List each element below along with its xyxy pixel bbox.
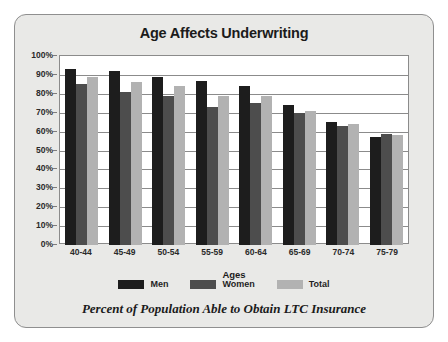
legend-label: Women	[222, 279, 254, 289]
bar-women-50-54[interactable]	[163, 96, 174, 245]
bar-women-75-79[interactable]	[381, 134, 392, 246]
bar-total-65-69[interactable]	[305, 111, 316, 245]
bar-group	[234, 56, 278, 245]
y-axis-tick-label: 80%	[36, 88, 53, 98]
bar-women-70-74[interactable]	[337, 126, 348, 245]
y-axis-tick-mark	[53, 244, 57, 245]
bar-group	[321, 56, 365, 245]
legend-label: Men	[150, 279, 168, 289]
bar-women-40-44[interactable]	[76, 84, 87, 245]
y-axis-tick-mark	[53, 112, 57, 113]
x-axis-tick-label: 40-44	[59, 247, 103, 257]
legend-item-women[interactable]: Women	[190, 279, 254, 289]
bar-women-45-49[interactable]	[120, 92, 131, 245]
legend-swatch-icon	[118, 280, 144, 289]
y-axis-tick-mark	[53, 131, 57, 132]
bar-men-40-44[interactable]	[65, 69, 76, 245]
bar-total-70-74[interactable]	[348, 124, 359, 245]
bar-total-60-64[interactable]	[261, 96, 272, 245]
plot-area	[59, 55, 409, 244]
x-axis-tick-label: 70-74	[322, 247, 366, 257]
chart-caption: Percent of Population Able to Obtain LTC…	[15, 301, 433, 317]
x-axis-tick-labels: 40-4445-4950-5455-5960-6465-6970-7475-79	[59, 247, 409, 257]
legend-item-total[interactable]: Total	[277, 279, 330, 289]
y-axis-tick-mark	[53, 187, 57, 188]
chart-title: Age Affects Underwriting	[15, 25, 433, 41]
legend-label: Total	[309, 279, 330, 289]
bar-men-75-79[interactable]	[370, 137, 381, 245]
y-axis-tick-mark	[53, 55, 57, 56]
y-axis-tick-label: 10%	[36, 220, 53, 230]
bar-women-60-64[interactable]	[250, 103, 261, 245]
bar-group	[60, 56, 104, 245]
bar-total-75-79[interactable]	[392, 135, 403, 245]
bar-men-55-59[interactable]	[196, 81, 207, 245]
chart-figure: Age Affects Underwriting 100%90%80%70%60…	[14, 14, 434, 328]
y-axis-tick-mark	[53, 150, 57, 151]
y-axis-tick-label: 50%	[36, 145, 53, 155]
bar-women-55-59[interactable]	[207, 107, 218, 245]
bar-group	[147, 56, 191, 245]
legend-item-men[interactable]: Men	[118, 279, 168, 289]
bar-women-65-69[interactable]	[294, 113, 305, 245]
y-axis-tick-mark	[53, 225, 57, 226]
y-axis-tick-label: 20%	[36, 201, 53, 211]
bar-men-50-54[interactable]	[152, 77, 163, 245]
legend-swatch-icon	[190, 280, 216, 289]
bar-total-50-54[interactable]	[174, 86, 185, 245]
bar-total-55-59[interactable]	[218, 96, 229, 245]
y-axis-tick-mark	[53, 74, 57, 75]
bar-group	[365, 56, 409, 245]
y-axis-tick-label: 70%	[36, 107, 53, 117]
bar-series-container	[60, 56, 408, 245]
bar-group	[104, 56, 148, 245]
plot-wrapper: 40-4445-4950-5455-5960-6465-6970-7475-79…	[59, 55, 409, 258]
legend-swatch-icon	[277, 280, 303, 289]
bar-group	[191, 56, 235, 245]
y-axis-tick-label: 30%	[36, 182, 53, 192]
bar-men-70-74[interactable]	[326, 122, 337, 245]
y-axis: 100%90%80%70%60%50%40%30%20%10%0%	[15, 55, 57, 244]
x-axis-tick-label: 60-64	[234, 247, 278, 257]
x-axis-tick-label: 75-79	[365, 247, 409, 257]
chart-legend: MenWomenTotal	[15, 279, 433, 289]
y-axis-tick-label: 60%	[36, 126, 53, 136]
y-axis-tick-mark	[53, 206, 57, 207]
x-axis-tick-label: 65-69	[278, 247, 322, 257]
bar-men-60-64[interactable]	[239, 86, 250, 245]
bar-men-65-69[interactable]	[283, 105, 294, 245]
y-axis-tick-label: 0%	[41, 239, 53, 249]
bar-group	[278, 56, 322, 245]
x-axis-tick-label: 45-49	[103, 247, 147, 257]
x-axis-tick-label: 55-59	[190, 247, 234, 257]
bar-total-40-44[interactable]	[87, 77, 98, 245]
y-axis-tick-label: 40%	[36, 163, 53, 173]
y-axis-tick-label: 100%	[31, 50, 53, 60]
y-axis-tick-mark	[53, 93, 57, 94]
y-axis-tick-mark	[53, 168, 57, 169]
y-axis-tick-label: 90%	[36, 69, 53, 79]
x-axis-tick-label: 50-54	[147, 247, 191, 257]
bar-total-45-49[interactable]	[131, 82, 142, 245]
bar-men-45-49[interactable]	[109, 71, 120, 245]
